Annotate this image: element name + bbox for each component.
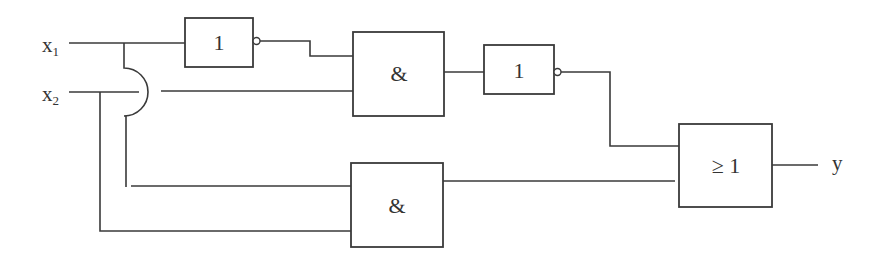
or-gate: ≥ 1 [679, 124, 772, 207]
wire-x2-to-and2 [100, 92, 351, 231]
svg-text:1: 1 [214, 30, 225, 55]
and-gate-1: & [353, 32, 444, 116]
output-label-y: y [832, 151, 843, 175]
inversion-bubble-icon [554, 69, 561, 76]
wire-not2-to-or [561, 72, 679, 146]
logic-diagram: x1 x2 1 & 1 & ≥ 1 y [0, 0, 887, 261]
and-gate-2: & [351, 163, 443, 247]
wire-not1-to-and1 [260, 41, 353, 56]
svg-text:1: 1 [514, 58, 525, 83]
not-gate-2: 1 [484, 45, 561, 94]
input-label-x1: x1 [42, 33, 59, 59]
input-label-x2: x2 [42, 82, 59, 108]
wire-x1-branch [124, 43, 148, 187]
svg-text:&: & [388, 193, 405, 218]
svg-text:&: & [390, 61, 407, 86]
svg-text:≥ 1: ≥ 1 [712, 153, 741, 178]
inversion-bubble-icon [253, 38, 260, 45]
not-gate-1: 1 [185, 18, 260, 67]
